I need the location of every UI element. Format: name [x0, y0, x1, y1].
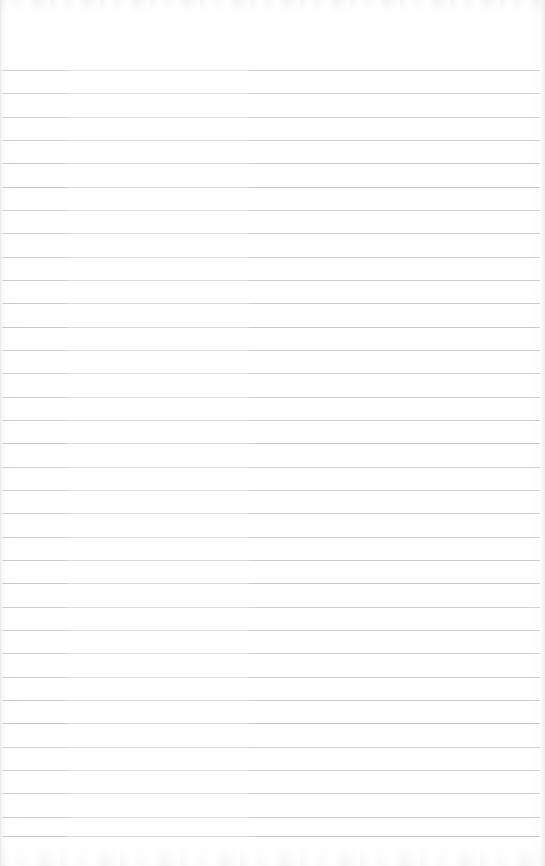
rule-line [2, 303, 540, 304]
rule-line [2, 513, 540, 514]
rule-line [2, 560, 540, 561]
rule-line [2, 397, 540, 398]
rule-line [2, 140, 540, 141]
rule-line [2, 583, 540, 584]
rule-line [2, 700, 540, 701]
rule-line [2, 327, 540, 328]
rule-line [2, 653, 540, 654]
rule-line [2, 677, 540, 678]
rule-line [2, 817, 540, 818]
rule-line [2, 233, 540, 234]
rule-line [2, 630, 540, 631]
rule-line [2, 350, 540, 351]
rule-line [2, 257, 540, 258]
rule-line [2, 117, 540, 118]
rule-line [2, 747, 540, 748]
rule-line [2, 93, 540, 94]
rule-line [2, 467, 540, 468]
rule-line [2, 836, 540, 837]
rule-line [2, 70, 540, 71]
rule-line [2, 163, 540, 164]
rule-line [2, 793, 540, 794]
rule-line [2, 607, 540, 608]
rule-line [2, 280, 540, 281]
rule-line [2, 537, 540, 538]
rule-line [2, 723, 540, 724]
rule-line [2, 490, 540, 491]
ruled-lines-layer [0, 0, 545, 866]
rule-line [2, 420, 540, 421]
rule-line [2, 187, 540, 188]
rule-line [2, 443, 540, 444]
rule-line [2, 210, 540, 211]
rule-line [2, 770, 540, 771]
scanned-page [0, 0, 545, 866]
rule-line [2, 373, 540, 374]
